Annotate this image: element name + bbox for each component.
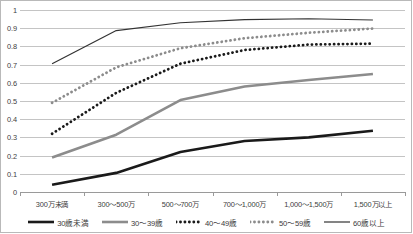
legend-item[interactable]: 60歳以上 [324,217,385,228]
chart-container: 10.90.80.70.60.50.40.30.20.10 300万未満300〜… [0,0,413,234]
legend-label: 30歳未満 [57,217,89,228]
legend-label: 40〜49歳 [205,217,237,228]
series-line-2 [52,74,373,157]
series-line-1 [52,131,373,185]
legend-swatch-icon [28,218,54,226]
legend-swatch-icon [250,218,276,226]
chart-legend: 30歳未満30〜39歳40〜49歳50〜59歳60歳以上 [0,214,413,230]
legend-swatch-icon [102,218,128,226]
legend-item[interactable]: 30〜39歳 [102,217,163,228]
legend-label: 50〜59歳 [279,217,311,228]
legend-swatch-icon [324,218,350,226]
series-layer [0,0,413,234]
series-line-3 [52,44,373,134]
series-line-4 [52,29,373,103]
series-line-5 [52,19,373,64]
legend-label: 30〜39歳 [131,217,163,228]
legend-item[interactable]: 40〜49歳 [176,217,237,228]
legend-swatch-icon [176,218,202,226]
legend-item[interactable]: 30歳未満 [28,217,89,228]
legend-item[interactable]: 50〜59歳 [250,217,311,228]
legend-label: 60歳以上 [353,217,385,228]
